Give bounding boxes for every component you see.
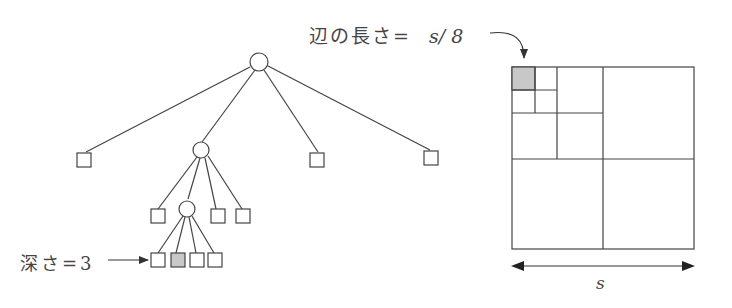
side-length-label: s [596, 273, 605, 293]
level2-node [179, 201, 195, 217]
level1-node [193, 142, 209, 158]
edge-length-value: s/ 8 [429, 25, 463, 47]
depth-label: 深さ=3 [20, 249, 95, 275]
root-node [250, 53, 268, 71]
edge-length-label: 辺の長さ= s/ 8 [309, 21, 463, 48]
edge-length-prefix: 辺の長さ= [309, 25, 411, 47]
